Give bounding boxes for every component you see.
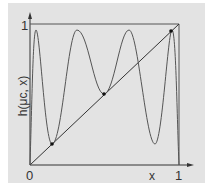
y-axis-label: h(μc, x): [16, 76, 30, 116]
y-axis-arrow-icon: [28, 12, 32, 19]
fixed-point-marker: [50, 142, 54, 146]
y-tick-one: 1: [21, 19, 28, 32]
x-tick-zero: 0: [26, 169, 33, 182]
x-axis-arrow-icon: [187, 163, 194, 167]
x-tick-one: 1: [175, 169, 182, 182]
x-axis-label: x: [149, 170, 155, 182]
chart-plot: [0, 0, 205, 192]
fixed-point-marker: [169, 29, 173, 33]
fixed-point-marker: [102, 92, 106, 96]
